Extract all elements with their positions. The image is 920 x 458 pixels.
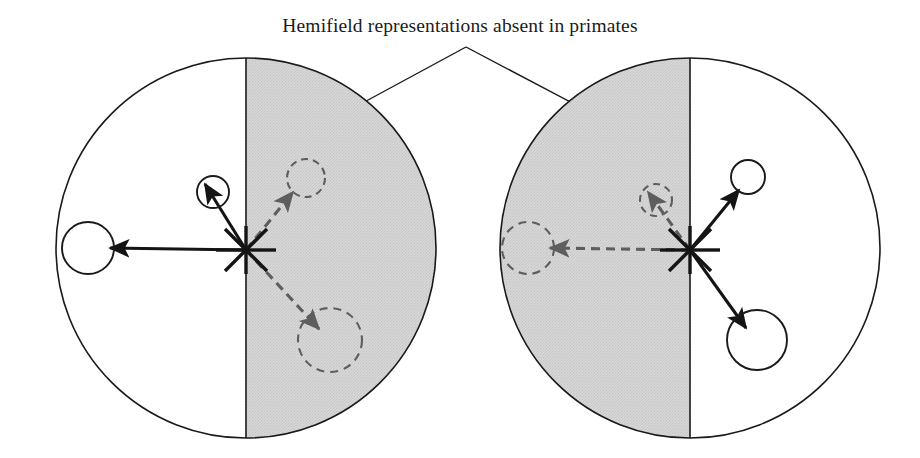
hemifield-representation-diagram: Hemifield representations absent in prim… [0,0,920,458]
figure-root: Hemifield representations absent in prim… [0,0,920,458]
figure-caption: Hemifield representations absent in prim… [282,15,637,36]
left-panel-upper-left-solid-circle [197,176,229,208]
right-visual-field-diagram [490,50,880,450]
right-panel-lower-right-solid-circle [727,310,787,370]
left-visual-field-diagram [56,50,446,450]
right-panel-upper-right-solid-circle [731,160,765,194]
left-panel-upper-left-solid-arrow [205,184,246,250]
left-panel-left-solid-circle [62,222,114,274]
left-panel-present-representations [62,176,246,274]
